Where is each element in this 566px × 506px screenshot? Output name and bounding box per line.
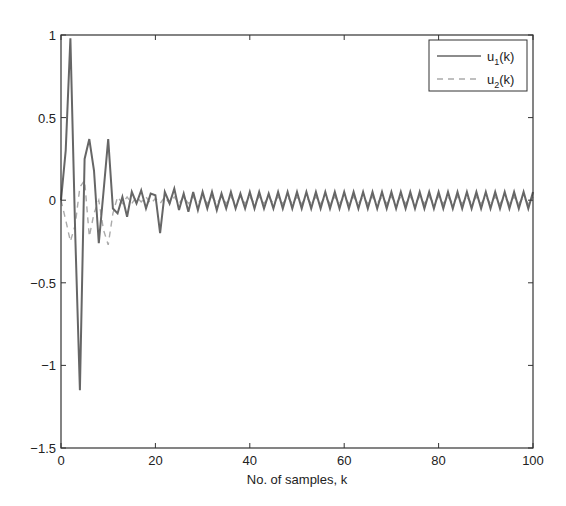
x-tick-label: 80 [431,453,445,468]
legend: u1(k) u2(k) [429,40,527,91]
x-tick-label: 40 [243,453,257,468]
x-axis: 020406080100 [57,35,543,468]
y-tick-label: −1.5 [30,441,56,456]
y-tick-label: 0.5 [38,111,56,126]
plot-frame [61,35,533,448]
x-tick-label: 20 [148,453,162,468]
x-tick-label: 60 [337,453,351,468]
y-tick-label: −1 [41,358,56,373]
x-tick-label: 0 [57,453,64,468]
y-tick-label: 0 [49,193,56,208]
line-chart: 020406080100 −1.5−1−0.500.51 No. of samp… [0,0,566,506]
y-tick-label: −0.5 [30,276,56,291]
y-axis: −1.5−1−0.500.51 [30,28,533,456]
x-tick-label: 100 [522,453,544,468]
y-tick-label: 1 [49,28,56,43]
x-axis-label: No. of samples, k [247,472,348,487]
